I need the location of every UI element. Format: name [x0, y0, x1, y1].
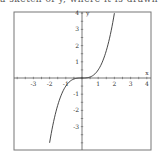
x-tick-label: 4 — [145, 80, 149, 87]
x-tick-label: -2 — [47, 80, 53, 87]
x-axis-label: x — [145, 69, 149, 76]
x-tick-label: 2 — [112, 80, 116, 87]
x-tick-label: -3 — [30, 80, 36, 87]
y-tick-label: -3 — [73, 123, 79, 130]
cubic-graph: -3-2-11234-3-2-11234xy — [0, 0, 160, 156]
y-axis-label: y — [85, 9, 90, 17]
y-tick-label: 4 — [75, 9, 79, 16]
y-tick-label: 1 — [75, 58, 79, 65]
x-tick-label: 3 — [129, 80, 133, 87]
y-tick-label: 3 — [75, 25, 79, 32]
y-tick-label: 2 — [75, 42, 79, 49]
y-tick-label: -2 — [73, 106, 79, 113]
x-tick-label: 1 — [96, 80, 100, 87]
y-tick-label: -1 — [73, 90, 79, 97]
